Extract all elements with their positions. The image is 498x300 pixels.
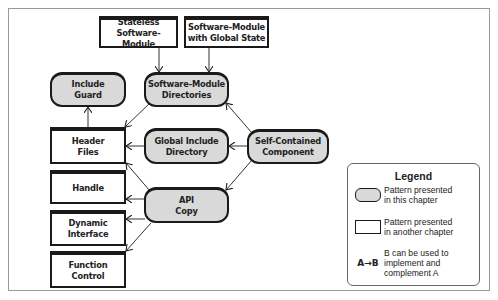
node-label: Guard [72,90,105,101]
legend-title: Legend [348,170,479,182]
node-label: Component [255,147,321,158]
node-label: Include [72,79,105,90]
legend-item-this-chapter: Pattern presented in this chapter [352,185,475,205]
node-label: Control [69,271,108,282]
node-label: Dynamic [68,218,109,229]
node-dynamic-interface: Dynamic Interface [50,210,126,246]
edge-apicopy-to-header [126,163,150,191]
node-self-contained-component: Self-Contained Component [247,129,329,164]
edge-selfcontained-to-apicopy [226,160,252,190]
node-label: Files [72,147,105,158]
node-label: Global Include [154,136,218,147]
rounded-box-icon [355,188,381,202]
node-label: Directory [154,147,218,158]
node-label: Software-Module [188,22,266,33]
node-label: Software-Module [101,28,176,50]
node-label: Function [69,260,108,271]
legend-item-arrow: A→B B can be used to implement and compl… [352,248,475,278]
node-include-guard: Include Guard [50,72,126,107]
node-api-copy: API Copy [144,187,229,223]
legend-text: Pattern presented [384,217,453,227]
node-global-include-directory: Global Include Directory [144,128,229,164]
legend-text: in another chapter [384,227,453,237]
node-label: with Global State [188,33,266,44]
legend-text: in this chapter [384,195,452,205]
node-software-module-global-state: Software-Module with Global State [184,16,269,48]
node-header-files: Header Files [50,127,126,164]
node-function-control: Function Control [50,251,126,288]
legend-text: Pattern presented [384,185,452,195]
node-label: Directories [148,90,225,101]
node-handle: Handle [50,170,126,204]
node-label: API [175,195,197,206]
node-software-module-directories: Software-Module Directories [144,72,229,107]
arrow-icon: A→B [357,258,378,268]
legend-item-other-chapter: Pattern presented in another chapter [352,217,475,237]
node-label: Stateless [101,17,176,28]
node-label: Copy [175,206,197,217]
node-stateless-software-module: Stateless Software-Module [99,16,178,48]
node-label: Interface [68,229,109,240]
edge-apicopy-to-function [126,223,151,251]
legend-text: complement A [384,268,449,278]
legend-text: B can be used to [384,248,449,258]
legend-text: implement and [384,258,449,268]
node-label: Self-Contained [255,136,321,147]
node-label: Software-Module [148,79,225,90]
edge-selfcontained-to-directories [226,103,252,133]
rectangle-box-icon [355,220,381,234]
edge-directories-to-header [125,103,150,127]
legend: Legend Pattern presented in this chapter… [347,163,480,286]
node-label: Handle [72,183,104,194]
node-label: Header [72,136,105,147]
